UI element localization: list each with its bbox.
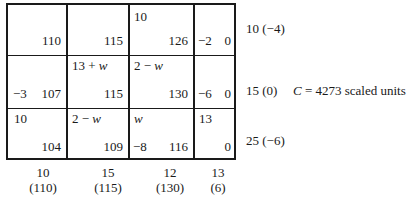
- column-label: 12(130): [140, 165, 200, 195]
- cell-delta: −6: [198, 86, 212, 102]
- cell-cost: 107: [42, 86, 62, 102]
- row-supply-label: 25 (−6): [246, 133, 285, 149]
- tableau-cell: 2 − w109: [66, 107, 127, 158]
- row-supply-label: 10 (−4): [246, 21, 285, 37]
- cell-cost: 0: [225, 86, 232, 102]
- column-potential: (130): [140, 180, 200, 195]
- cell-cost: 104: [42, 139, 62, 155]
- tableau-cell: 2 − w130: [128, 54, 192, 105]
- cell-allocation: w: [134, 111, 143, 127]
- tableau-cell: 13 + w115: [66, 54, 127, 105]
- cell-cost: 0: [225, 33, 232, 49]
- tableau-cell: −3107: [8, 54, 65, 105]
- cell-cost: 115: [104, 86, 123, 102]
- cell-allocation: 13 + w: [72, 58, 108, 74]
- cost-value: = 4273 scaled units: [302, 83, 406, 98]
- cell-cost: 0: [225, 139, 232, 155]
- cost-symbol: C: [293, 83, 302, 98]
- tableau-cell: 110: [8, 5, 65, 52]
- column-label: 10(110): [18, 165, 68, 195]
- column-potential: (6): [198, 180, 238, 195]
- tableau-cell: −20: [193, 5, 235, 52]
- cell-cost: 109: [104, 139, 124, 155]
- tableau-cell: 10126: [128, 5, 192, 52]
- cell-delta: −2: [198, 33, 212, 49]
- total-cost: C = 4273 scaled units: [293, 83, 406, 99]
- cell-allocation: 10: [14, 111, 27, 127]
- tableau-cell: 10104: [8, 107, 65, 158]
- row-supply-label: 15 (0): [246, 83, 277, 99]
- tableau-cell: 130: [193, 107, 235, 158]
- cell-delta: −3: [13, 86, 27, 102]
- column-demand: 13: [198, 165, 238, 180]
- cell-cost: 126: [169, 33, 189, 49]
- cell-allocation: 2 − w: [134, 58, 163, 74]
- cell-cost: 130: [169, 86, 189, 102]
- column-demand: 12: [140, 165, 200, 180]
- column-label: 15(115): [78, 165, 138, 195]
- tableau-cell: 115: [66, 5, 127, 52]
- column-demand: 15: [78, 165, 138, 180]
- cell-allocation: 10: [134, 9, 147, 25]
- cell-allocation: 13: [199, 111, 212, 127]
- cell-cost: 115: [104, 33, 123, 49]
- cell-cost: 110: [42, 33, 61, 49]
- cell-cost: 116: [169, 139, 188, 155]
- column-potential: (110): [18, 180, 68, 195]
- column-potential: (115): [78, 180, 138, 195]
- tableau-cell: w−8116: [128, 107, 192, 158]
- tableau-cell: −60: [193, 54, 235, 105]
- column-label: 13(6): [198, 165, 238, 195]
- cell-delta: −8: [133, 139, 147, 155]
- column-demand: 10: [18, 165, 68, 180]
- cell-allocation: 2 − w: [72, 111, 101, 127]
